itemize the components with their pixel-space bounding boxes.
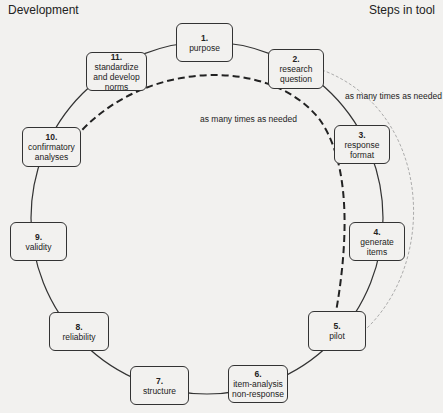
step-label: pilot <box>329 331 345 341</box>
step-number: 8. <box>75 322 82 332</box>
step-label: research question <box>274 64 318 84</box>
step-number: 3. <box>358 130 365 140</box>
step-label: reliability <box>62 332 95 342</box>
step-5-box: 5. pilot <box>308 311 366 351</box>
step-3-box: 3. response format <box>334 125 390 164</box>
step-number: 11. <box>111 52 122 62</box>
step-9-box: 9. validity <box>10 222 67 261</box>
step-label: standardize and develop norms <box>87 62 147 92</box>
step-1-box: 1. purpose <box>176 23 233 62</box>
step-number: 7. <box>156 376 163 386</box>
step-label: purpose <box>189 43 220 53</box>
step-10-box: 10. confirmatory analyses <box>22 127 81 167</box>
step-label: item-analysis non-response <box>230 379 286 399</box>
step-7-box: 7. structure <box>130 366 189 405</box>
inner-loop-note: as many times as needed <box>200 114 297 124</box>
step-label: generate items <box>355 237 399 257</box>
step-number: 1. <box>201 33 208 43</box>
step-2-box: 2. research question <box>268 49 324 89</box>
inner-loop-arc <box>75 75 345 312</box>
step-number: 5. <box>333 321 340 331</box>
step-11-box: 11. standardize and develop norms <box>86 52 147 91</box>
step-number: 10. <box>46 132 58 142</box>
step-4-box: 4. generate items <box>349 222 405 261</box>
step-number: 9. <box>35 232 42 242</box>
step-number: 6. <box>254 369 261 379</box>
step-number: 2. <box>292 54 299 64</box>
step-label: response format <box>340 140 384 160</box>
step-label: validity <box>26 242 52 252</box>
step-number: 4. <box>373 227 380 237</box>
step-8-box: 8. reliability <box>49 312 109 351</box>
step-label: confirmatory analyses <box>25 142 79 162</box>
step-6-box: 6. item-analysis non-response <box>228 365 288 403</box>
step-label: structure <box>143 386 176 396</box>
outer-loop-note: as many times as needed <box>345 91 442 101</box>
